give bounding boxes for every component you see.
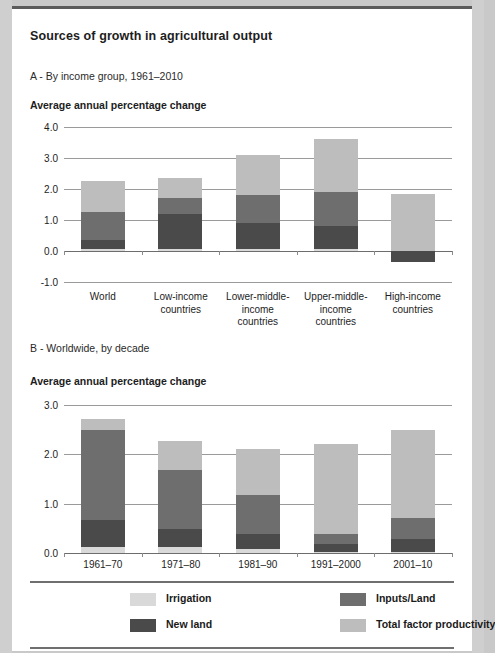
bar-segment [236,549,280,553]
bar-segment [81,430,125,520]
x-axis-label: World [64,291,142,304]
bar-segment [81,249,125,251]
legend-divider-bottom [30,647,454,649]
x-axis-label: 1971–80 [142,559,220,572]
gridline [64,127,452,128]
x-axis-tick [64,553,65,557]
gridline [64,282,452,283]
bar-segment [158,198,202,214]
legend-swatch-icon [340,619,366,632]
bar-segment [314,552,358,553]
x-axis-tick [297,251,298,255]
bar-segment [158,178,202,198]
legend-label: Inputs/Land [376,592,436,604]
y-axis-tick-label: 0.0 [26,548,58,559]
bar-segment [81,240,125,249]
bar-segment [236,249,280,251]
x-axis-tick [219,251,220,255]
document-page: Sources of growth in agricultural output… [12,6,472,651]
bar-segment [391,251,435,262]
y-axis-tick-label: 2.0 [26,184,58,195]
legend-label: Irrigation [166,592,212,604]
y-axis-tick-label: 1.0 [26,499,58,510]
bar-segment [236,534,280,549]
x-axis-tick [142,251,143,255]
bar-segment [81,419,125,430]
bar-segment [236,495,280,534]
bar-segment [391,430,435,518]
bar-segment [158,214,202,249]
x-axis-tick [219,553,220,557]
page-edge-right [472,0,484,653]
legend-swatch-icon [130,593,156,606]
gridline [64,405,452,406]
chart-legend: IrrigationInputs/LandNew landTotal facto… [30,592,454,644]
x-axis-tick [297,553,298,557]
panel-a-subtitle: A - By income group, 1961–2010 [30,70,183,82]
bar-segment [158,441,202,470]
bar-segment [314,192,358,226]
x-axis-tick [452,553,453,557]
bar-segment [314,226,358,249]
chart-panel-a: 4.03.02.01.00.0-1.0WorldLow-incomecountr… [12,121,472,336]
x-axis-tick [452,251,453,255]
page-edge-left [0,0,12,653]
panel-a-axis-title: Average annual percentage change [30,99,206,111]
x-axis-label: 1991–2000 [297,559,375,572]
bar-segment [391,518,435,539]
bar-segment [391,539,435,552]
x-axis-label: 1981–90 [219,559,297,572]
x-axis-tick [374,251,375,255]
bar-segment [158,470,202,529]
axis-zero-line [64,553,452,554]
x-axis-tick [64,251,65,255]
bar-segment [158,547,202,553]
bar-segment [314,544,358,552]
x-axis-label: 2001–10 [374,559,452,572]
bar-segment [314,534,358,544]
bar-segment [81,520,125,547]
page-title: Sources of growth in agricultural output [30,29,272,43]
y-axis-tick-label: 0.0 [26,246,58,257]
bar-segment [314,249,358,251]
legend-label: Total factor productivity [376,618,495,630]
y-axis-tick-label: -1.0 [26,277,58,288]
x-axis-label: Low-incomecountries [142,291,220,316]
y-axis-tick-label: 1.0 [26,215,58,226]
x-axis-tick [374,553,375,557]
bar-segment [81,212,125,240]
bar-segment [236,195,280,223]
bar-segment [314,139,358,192]
x-axis-label: High-incomecountries [374,291,452,316]
x-axis-label: 1961–70 [64,559,142,572]
bar-segment [391,194,435,251]
chart-panel-b: 3.02.01.00.01961–701971–801981–901991–20… [12,399,472,584]
panel-b-subtitle: B - Worldwide, by decade [30,342,149,354]
bar-segment [158,529,202,547]
bar-segment [158,249,202,251]
y-axis-tick-label: 3.0 [26,153,58,164]
bar-segment [81,547,125,553]
bar-segment [391,552,435,553]
y-axis-tick-label: 4.0 [26,122,58,133]
legend-divider-top [30,581,454,583]
x-axis-tick [142,553,143,557]
bar-segment [236,223,280,249]
x-axis-label: Upper-middle-incomecountries [297,291,375,329]
legend-swatch-icon [130,619,156,632]
y-axis-tick-label: 3.0 [26,400,58,411]
x-axis-label: Lower-middle-incomecountries [219,291,297,329]
bar-segment [236,155,280,195]
bar-segment [81,181,125,212]
legend-label: New land [166,618,212,630]
panel-b-axis-title: Average annual percentage change [30,375,206,387]
y-axis-tick-label: 2.0 [26,449,58,460]
bar-segment [236,449,280,495]
legend-swatch-icon [340,593,366,606]
bar-segment [314,444,358,534]
